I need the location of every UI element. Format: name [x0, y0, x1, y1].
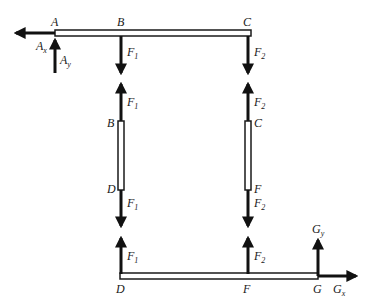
label-point-g: G: [313, 282, 322, 296]
member-cf: [245, 121, 251, 190]
label-f1-top: F1: [126, 45, 138, 61]
label-f2-bottom: F2: [253, 249, 265, 265]
label-point-f-bottom: F: [242, 282, 251, 296]
label-f2-link-top: F2: [253, 95, 265, 111]
label-f2-link-bottom: F2: [253, 196, 265, 212]
label-point-c-link: C: [254, 116, 263, 130]
label-point-a: A: [50, 15, 59, 29]
label-f2-top: F2: [253, 45, 265, 61]
label-point-b-top: B: [117, 15, 125, 29]
label-ay: Ay: [59, 53, 71, 69]
member-dfg: [120, 273, 318, 279]
label-point-c-top: C: [243, 15, 252, 29]
label-gx: Gx: [333, 282, 346, 298]
label-point-d-bottom: D: [115, 282, 125, 296]
member-abc: [55, 30, 251, 36]
label-point-b-link: B: [107, 116, 115, 130]
label-f1-bottom: F1: [126, 249, 138, 265]
label-point-d-link: D: [106, 182, 116, 196]
member-bd: [118, 121, 124, 190]
label-f1-link-top: F1: [126, 95, 138, 111]
label-f1-link-bottom: F1: [126, 196, 138, 212]
label-point-f-link: F: [253, 182, 262, 196]
label-gy: Gy: [312, 222, 325, 238]
label-ax: Ax: [35, 39, 47, 55]
free-body-diagram: A B C Ax Ay F1 F2 F1 F2 B C D F F1 F2 F1…: [0, 0, 372, 308]
